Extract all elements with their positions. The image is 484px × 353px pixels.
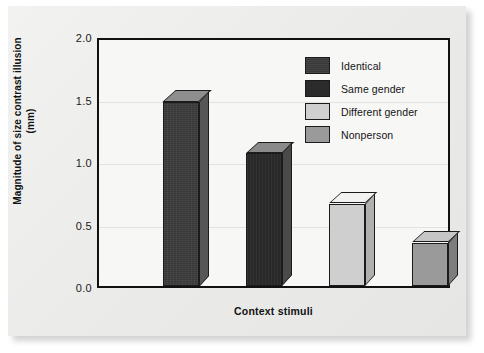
bar-different-gender-front: [329, 204, 365, 286]
x-axis-title: Context stimuli: [97, 305, 450, 317]
legend-swatch-identical: [305, 57, 330, 74]
legend-swatch-same-gender: [305, 80, 330, 97]
y-tick-label-1: 0.5: [76, 220, 92, 232]
y-tick-label-0: 0.0: [76, 282, 92, 294]
legend-item-nonperson[interactable]: Nonperson: [305, 123, 455, 146]
bar-identical[interactable]: [163, 90, 199, 286]
legend-label-nonperson: Nonperson: [341, 129, 393, 141]
x-axis-baseline: [97, 286, 450, 288]
legend-swatch-different-gender: [305, 103, 330, 120]
bar-same-gender-side: [282, 142, 292, 286]
bar-same-gender[interactable]: [246, 142, 282, 286]
bar-nonperson-front: [412, 243, 448, 286]
figure-root: 0.0 0.5 1.0 1.5 2.0: [0, 0, 484, 353]
bar-nonperson[interactable]: [412, 231, 448, 286]
y-axis-title-line2: (mm): [24, 31, 37, 211]
y-tick-label-4: 2.0: [76, 32, 92, 44]
legend-item-identical[interactable]: Identical: [305, 54, 455, 77]
bar-identical-front: [163, 102, 199, 287]
legend-item-same-gender[interactable]: Same gender: [305, 77, 455, 100]
legend-label-different-gender: Different gender: [341, 106, 418, 118]
y-tick-label-3: 1.5: [76, 95, 92, 107]
legend-item-different-gender[interactable]: Different gender: [305, 100, 455, 123]
y-axis-title: Magnitude of size contrast illusion (mm): [11, 31, 37, 211]
bar-same-gender-front: [246, 153, 282, 286]
y-tick-label-2: 1.0: [76, 157, 92, 169]
bar-different-gender[interactable]: [329, 192, 365, 286]
legend-swatch-nonperson: [305, 126, 330, 143]
bar-identical-side: [199, 90, 209, 286]
y-axis-ticks: 0.0 0.5 1.0 1.5 2.0: [58, 38, 92, 288]
legend-label-same-gender: Same gender: [341, 83, 405, 95]
bar-different-gender-side: [365, 193, 375, 286]
legend: Identical Same gender Different gender N…: [305, 54, 455, 146]
y-axis-title-line1: Magnitude of size contrast illusion: [11, 31, 24, 211]
legend-label-identical: Identical: [341, 60, 381, 72]
